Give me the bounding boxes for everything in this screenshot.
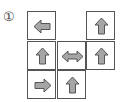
grid-cell: [27, 70, 56, 99]
arrow-left-icon: [28, 12, 57, 41]
arrow-left-right-icon: [58, 42, 87, 71]
arrow-up-icon: [58, 71, 87, 100]
grid-cell: [57, 70, 86, 99]
arrow-right-icon: [28, 71, 57, 100]
grid-cell: [57, 41, 86, 70]
puzzle-label: ①: [3, 10, 15, 23]
arrow-up-icon: [28, 42, 57, 71]
arrow-up-icon: [87, 12, 116, 41]
grid-cell: [86, 11, 115, 40]
grid-cell: [27, 41, 56, 70]
grid-cell: [27, 11, 56, 40]
arrow-up-icon: [87, 42, 116, 71]
grid-cell: [86, 41, 115, 70]
